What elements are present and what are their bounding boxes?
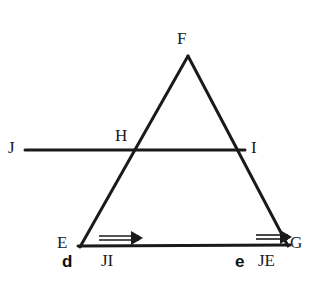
transversal-label-j: J [8,139,15,156]
triangle-base-eg [78,245,290,246]
vertex-label-g: G [290,234,302,251]
point-label-i: I [251,139,257,156]
vector-symbol-e: e [235,253,244,270]
point-label-h: H [115,127,127,144]
vector-name-ji: JI [101,252,113,269]
vector-symbol-d: d [62,253,72,270]
vector-name-je: JE [258,252,275,269]
geometry-canvas [0,0,322,288]
vector-arrow-mark-left-icon [99,231,143,245]
geometry-figure: F J H I E G d e JI JE [0,0,322,288]
vertex-label-f: F [177,30,186,47]
vertex-label-e: E [57,234,67,251]
